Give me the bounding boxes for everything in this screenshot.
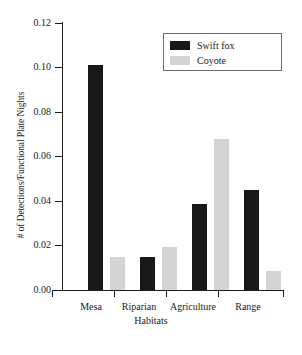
bar-chart: # of Detections/Functional Plate Nights … [0, 0, 302, 355]
legend-swatch-icon-coyote [170, 56, 190, 65]
legend-label-coyote: Coyote [197, 55, 226, 66]
y-tick-label-0.08: 0.08 [11, 107, 51, 117]
y-tick-mark-0.10 [55, 67, 62, 68]
x-tick-mark-3 [218, 290, 219, 297]
y-tick-mark-0.12 [55, 23, 62, 24]
legend-item-coyote: Coyote [170, 53, 276, 67]
bar-swift-fox-riparian [140, 257, 155, 290]
y-tick-label-0.02: 0.02 [11, 240, 51, 250]
y-tick-mark-0.02 [55, 245, 62, 246]
bar-swift-fox-range [244, 190, 259, 290]
bar-coyote-agriculture [214, 139, 229, 290]
x-tick-label-range: Range [223, 301, 273, 313]
x-tick-mark-2 [166, 290, 167, 297]
legend: Swift fox Coyote [163, 33, 282, 71]
x-tick-mark-left-edge [52, 290, 53, 297]
x-tick-label-mesa: Mesa [66, 301, 116, 313]
y-tick-label-0.00: 0.00 [11, 285, 51, 295]
bar-swift-fox-agriculture [192, 204, 207, 290]
y-tick-mark-0.04 [55, 201, 62, 202]
y-tick-label-0.10: 0.10 [11, 62, 51, 72]
bar-coyote-range [266, 271, 281, 290]
legend-label-swift-fox: Swift fox [197, 40, 235, 51]
y-tick-mark-0.06 [55, 156, 62, 157]
x-axis-title: Habitats [0, 315, 302, 326]
y-tick-label-0.06: 0.06 [11, 151, 51, 161]
x-tick-mark-1 [114, 290, 115, 297]
bar-swift-fox-mesa [88, 65, 103, 290]
legend-item-swift-fox: Swift fox [170, 38, 276, 52]
x-tick-mark-right-edge [283, 290, 284, 297]
bar-coyote-riparian [162, 247, 177, 290]
x-tick-label-agriculture: Agriculture [163, 301, 223, 313]
y-tick-label-0.04: 0.04 [11, 196, 51, 206]
bar-coyote-mesa [110, 257, 125, 290]
y-tick-mark-0.08 [55, 112, 62, 113]
x-tick-label-riparian: Riparian [113, 301, 165, 313]
y-tick-label-0.12: 0.12 [11, 18, 51, 28]
legend-swatch-icon-swift-fox [170, 41, 190, 50]
